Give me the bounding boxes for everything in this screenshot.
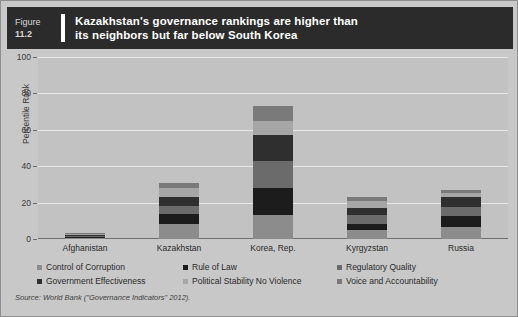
legend-label: Control of Corruption — [46, 262, 125, 272]
bar-segment[interactable] — [347, 230, 387, 239]
y-axis-tick-mark — [33, 57, 37, 58]
chart-plot-wrapper: Percentile Rank 020406080100 Afghanistan… — [7, 51, 513, 261]
x-axis-label: Kazakhstan — [132, 243, 226, 253]
legend-swatch-icon — [183, 279, 188, 284]
legend-swatch-icon — [337, 265, 342, 270]
x-axis-label: Russia — [414, 243, 508, 253]
bar-segment[interactable] — [253, 106, 293, 121]
figure-number-block: Figure 11.2 — [15, 16, 61, 40]
y-axis-tick-label: 80 — [7, 89, 31, 97]
y-axis-tick-mark — [33, 239, 37, 240]
legend-item[interactable]: Rule of Law — [183, 262, 237, 272]
figure-title: Kazakhstan's governance rankings are hig… — [75, 14, 358, 42]
bar-segment[interactable] — [347, 215, 387, 223]
figure-number: 11.2 — [15, 28, 61, 40]
bar-stack[interactable] — [65, 233, 105, 239]
bar-segment[interactable] — [253, 121, 293, 136]
bar-stack[interactable] — [441, 190, 481, 239]
legend-swatch-icon — [37, 279, 42, 284]
y-axis-tick-label: 20 — [7, 199, 31, 207]
legend-item[interactable]: Voice and Accountability — [337, 276, 438, 286]
y-axis-tick-mark — [33, 93, 37, 94]
x-axis-label: Korea, Rep. — [226, 243, 320, 253]
legend-swatch-icon — [337, 279, 342, 284]
figure-label: Figure — [15, 16, 61, 28]
y-axis-tick-label: 100 — [7, 53, 31, 61]
figure-banner: Figure 11.2 Kazakhstan's governance rank… — [7, 7, 513, 49]
bar-stack[interactable] — [159, 183, 199, 239]
legend-item[interactable]: Control of Corruption — [37, 262, 125, 272]
x-axis-label: Afghanistan — [38, 243, 132, 253]
legend-swatch-icon — [37, 265, 42, 270]
legend-item[interactable]: Political Stability No Violence — [183, 276, 301, 286]
bar-segment[interactable] — [253, 188, 293, 215]
legend-label: Rule of Law — [192, 262, 237, 272]
bar-segment[interactable] — [159, 188, 199, 197]
bar-segment[interactable] — [347, 201, 387, 208]
figure-title-line-1: Kazakhstan's governance rankings are hig… — [75, 14, 358, 28]
bar-segment[interactable] — [441, 197, 481, 207]
legend-label: Political Stability No Violence — [192, 276, 301, 286]
legend-label: Government Effectiveness — [46, 276, 146, 286]
bar-segment[interactable] — [441, 207, 481, 216]
bar-stack[interactable] — [253, 106, 293, 239]
y-axis-tick-label: 40 — [7, 162, 31, 170]
legend-item[interactable]: Government Effectiveness — [37, 276, 146, 286]
bar-segment[interactable] — [441, 227, 481, 239]
bar-segment[interactable] — [159, 224, 199, 239]
legend-label: Voice and Accountability — [346, 276, 438, 286]
y-axis-tick-mark — [33, 166, 37, 167]
y-axis-tick-label: 0 — [7, 235, 31, 243]
banner-divider — [61, 14, 65, 42]
figure-title-line-2: its neighbors but far below South Korea — [75, 28, 358, 42]
bar-segment[interactable] — [441, 216, 481, 227]
legend-item[interactable]: Regulatory Quality — [337, 262, 416, 272]
gridline — [38, 57, 508, 58]
bar-segment[interactable] — [159, 214, 199, 224]
legend-swatch-icon — [183, 265, 188, 270]
y-axis-title: Percentile Rank — [21, 59, 31, 169]
bar-segment[interactable] — [65, 238, 105, 239]
gridline — [38, 93, 508, 94]
figure-container: Figure 11.2 Kazakhstan's governance rank… — [0, 0, 518, 317]
y-axis-tick-label: 60 — [7, 126, 31, 134]
x-axis-label: Kyrgyzstan — [320, 243, 414, 253]
source-note: Source: World Bank ("Governance Indicato… — [15, 293, 190, 302]
legend-label: Regulatory Quality — [346, 262, 416, 272]
bar-segment[interactable] — [253, 161, 293, 188]
bar-segment[interactable] — [253, 215, 293, 239]
y-axis-tick-mark — [33, 130, 37, 131]
bar-segment[interactable] — [253, 135, 293, 160]
plot-area — [38, 57, 508, 239]
bar-stack[interactable] — [347, 197, 387, 239]
chart-legend: Control of CorruptionRule of LawRegulato… — [7, 261, 513, 289]
bar-segment[interactable] — [159, 197, 199, 206]
bar-segment[interactable] — [159, 206, 199, 214]
bar-segment[interactable] — [347, 208, 387, 215]
y-axis-tick-mark — [33, 203, 37, 204]
